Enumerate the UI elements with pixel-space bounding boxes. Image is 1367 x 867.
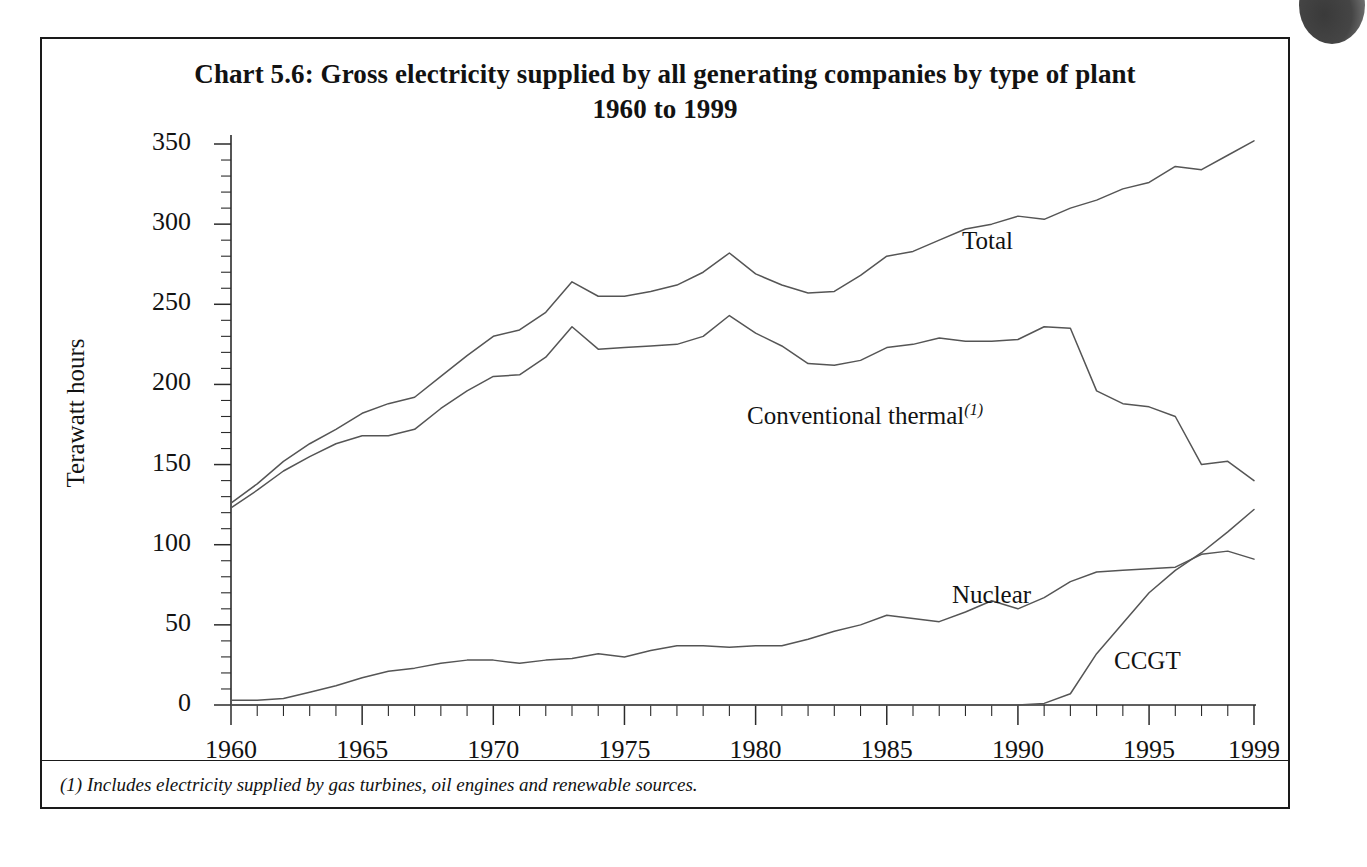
chart-plot-svg: [42, 39, 1292, 811]
y-tick-label: 350: [71, 127, 191, 157]
y-tick-label: 250: [71, 287, 191, 317]
series-line-conventional-thermal: [231, 316, 1254, 508]
y-tick-label: 150: [71, 448, 191, 478]
y-tick-label: 200: [71, 367, 191, 397]
y-tick-label: 100: [71, 528, 191, 558]
series-line-ccgt: [231, 509, 1254, 705]
series-label-nuclear: Nuclear: [952, 581, 1031, 609]
y-tick-label: 300: [71, 207, 191, 237]
series-label-total: Total: [962, 227, 1013, 255]
series-label-ccgt: CCGT: [1114, 647, 1181, 675]
y-tick-label: 50: [71, 608, 191, 638]
scan-artifact-blob: [1299, 0, 1365, 44]
chart-footnote: (1) Includes electricity supplied by gas…: [60, 774, 698, 796]
plot-area: [42, 39, 1292, 811]
series-group: [231, 141, 1254, 705]
footnote-divider: [42, 760, 1288, 761]
series-label-conventional-thermal: Conventional thermal(1): [747, 401, 983, 430]
chart-frame: Chart 5.6: Gross electricity supplied by…: [40, 37, 1290, 809]
axes-group: [214, 135, 1256, 725]
series-line-total: [231, 141, 1254, 503]
series-line-nuclear: [231, 551, 1254, 700]
series-label-conventional-thermal-text: Conventional thermal: [747, 402, 964, 429]
footnote-marker-1: (1): [964, 401, 983, 418]
y-tick-label: 0: [71, 688, 191, 718]
